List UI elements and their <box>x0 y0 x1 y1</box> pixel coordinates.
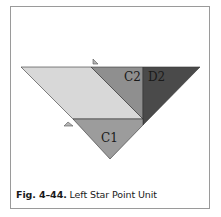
label-c2: C2 <box>124 71 141 83</box>
seam-marker-top-icon <box>93 59 98 64</box>
star-point-diagram <box>0 0 221 217</box>
figure-caption: Fig. 4–44. Left Star Point Unit <box>16 189 157 200</box>
label-c1: C1 <box>101 132 118 144</box>
seam-marker-left-icon <box>64 122 73 126</box>
figure-title: Left Star Point Unit <box>70 189 157 200</box>
label-d2: D2 <box>148 71 165 83</box>
figure-number: Fig. 4–44. <box>16 189 67 200</box>
